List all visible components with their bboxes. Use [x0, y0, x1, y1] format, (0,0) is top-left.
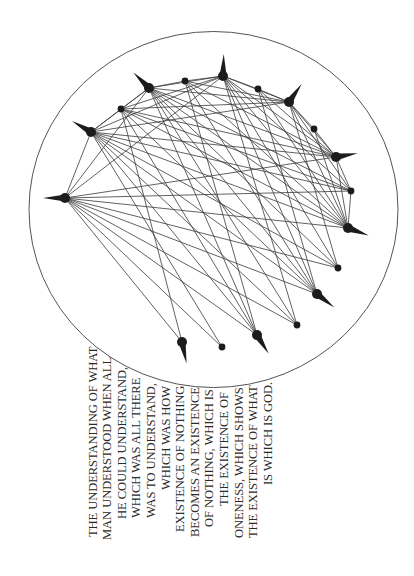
network-edge — [336, 157, 348, 228]
network-edge — [149, 88, 289, 102]
outer-circle — [29, 32, 398, 388]
caption-line: WAS TO UNDERSTAND, — [145, 383, 158, 518]
spiked-node-icon — [177, 337, 187, 364]
spiked-node-icon — [218, 54, 228, 81]
network-edge — [258, 89, 317, 294]
caption-line: ONENESS, WHICH SHOWS — [233, 387, 246, 538]
spiked-node-icon — [284, 84, 302, 107]
network-edge — [65, 198, 348, 228]
network-edges — [65, 76, 351, 347]
small-node-icon — [255, 86, 262, 93]
network-edge — [65, 198, 222, 347]
network-edge — [149, 88, 297, 325]
spiked-node-icon — [252, 330, 269, 354]
small-node-icon — [335, 265, 342, 272]
spiked-node-icon — [72, 121, 96, 137]
spiked-node-icon — [43, 193, 70, 203]
spiked-node-icon — [331, 152, 358, 162]
small-node-icon — [294, 322, 301, 329]
caption-line: THE EXISTENCE OF — [218, 392, 231, 506]
caption-line: WHICH WAS HOW — [160, 386, 173, 490]
network-edge — [149, 88, 348, 228]
small-node-icon — [182, 78, 189, 85]
small-node-icon — [348, 188, 355, 195]
caption-line: BECOMES AN EXISTENCE — [189, 387, 202, 537]
small-node-icon — [311, 126, 318, 133]
network-edge — [336, 157, 351, 191]
network-edge — [65, 198, 297, 325]
spiked-node-icon — [343, 223, 369, 236]
small-node-icon — [219, 344, 226, 351]
network-edge — [121, 109, 257, 335]
network-edge — [258, 89, 336, 157]
caption-line: THE UNDERSTANDING OF WHAT — [87, 347, 100, 537]
spiked-node-icon — [312, 289, 334, 308]
small-node-icon — [118, 106, 125, 113]
caption-line: MAN UNDERSTOOD WHEN ALL — [101, 357, 114, 540]
spiked-node-icon — [133, 72, 154, 93]
network-edge — [149, 88, 257, 335]
network-edge — [223, 76, 317, 294]
network-edge — [348, 191, 351, 228]
caption-line: OF NOTHING, WHICH IS — [203, 389, 216, 527]
caption-line: HE COULD UNDERSTAND, — [116, 367, 129, 519]
network-edge — [91, 132, 222, 347]
caption-line: WHICH WAS ALL THERE — [130, 378, 143, 518]
network-edge — [185, 81, 257, 335]
network-edge — [185, 81, 317, 294]
caption-line: THE EXISTENCE OF WHAT — [247, 385, 260, 538]
network-edge — [65, 198, 182, 342]
caption-line: EXISTENCE OF NOTHING — [174, 386, 187, 532]
network-nodes — [43, 54, 369, 364]
network-edge — [65, 198, 257, 335]
caption-line: IS WHICH IS GOD. — [262, 382, 275, 485]
